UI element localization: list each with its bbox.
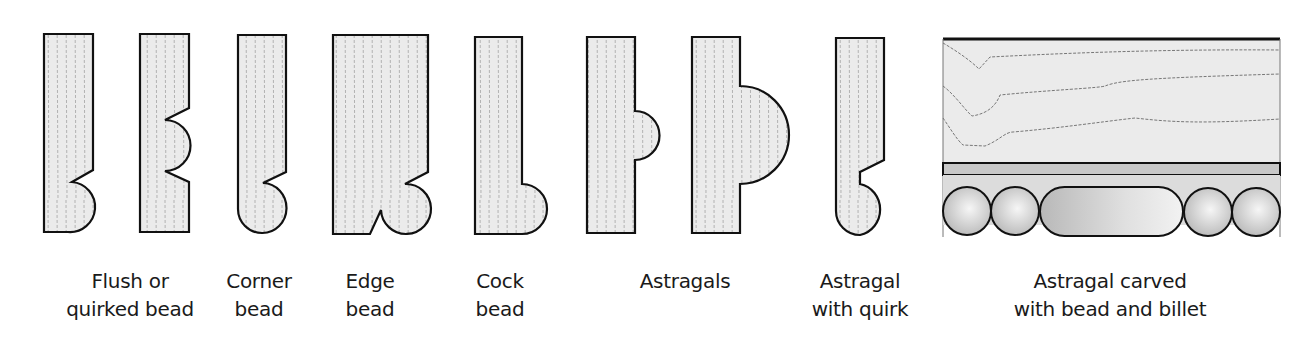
edge-bead-profile: [333, 35, 431, 234]
label-cock-bead: Cock bead: [465, 267, 535, 323]
label-corner-bead: Corner bead: [214, 267, 304, 323]
astragal-large-profile: [692, 37, 789, 233]
label-edge-bead: Edge bead: [335, 267, 405, 323]
label-astragal-carved: Astragal carved with bead and billet: [1000, 267, 1220, 323]
bead-and-billet-elevation: [943, 39, 1280, 237]
cock-bead-profile: [475, 37, 547, 234]
corner-bead-profile: [238, 35, 286, 233]
label-astragal-with-quirk: Astragal with quirk: [805, 267, 915, 323]
flush-bead-profile: [44, 34, 95, 232]
astragal-with-quirk-profile: [836, 38, 884, 235]
quirked-bead-profile: [140, 34, 191, 232]
label-astragals: Astragals: [620, 267, 750, 295]
astragal-small-profile: [587, 37, 660, 233]
label-flush-or-quirked-bead: Flush or quirked bead: [55, 267, 205, 323]
